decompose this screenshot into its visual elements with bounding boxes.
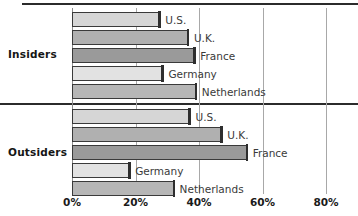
gridline-80 <box>326 8 327 194</box>
bar-insiders-germany[interactable] <box>72 66 162 81</box>
bar-insiders-uk[interactable] <box>72 30 188 45</box>
bar-row: Germany <box>72 163 326 178</box>
bar-row: U.S. <box>72 12 326 27</box>
bar-insiders-us[interactable] <box>72 12 159 27</box>
bar-label: France <box>253 147 288 159</box>
bar-end-cap <box>173 180 176 197</box>
bar-outsiders-us[interactable] <box>72 109 189 124</box>
bar-outsiders-uk[interactable] <box>72 127 221 142</box>
x-tick-label: 40% <box>186 196 211 208</box>
bar-row: Netherlands <box>72 181 326 196</box>
bar-outsiders-france[interactable] <box>72 145 247 160</box>
bar-end-cap <box>158 11 161 28</box>
group-label-insiders: Insiders <box>8 48 57 60</box>
bar-row: Netherlands <box>72 84 326 99</box>
bar-end-cap <box>193 47 196 64</box>
bar-chart: Insiders Outsiders U.S.U.K.FranceGermany… <box>0 0 358 216</box>
bar-outsiders-netherlands[interactable] <box>72 181 174 196</box>
bar-row: Germany <box>72 66 326 81</box>
top-rule <box>22 3 358 5</box>
group-label-outsiders: Outsiders <box>8 146 67 158</box>
bar-label: Germany <box>135 165 183 177</box>
bar-end-cap <box>195 83 198 100</box>
bar-label: Netherlands <box>180 183 244 195</box>
x-tick-label: 60% <box>250 196 275 208</box>
bar-row: U.S. <box>72 109 326 124</box>
bar-end-cap <box>187 29 190 46</box>
bar-label: Germany <box>168 68 216 80</box>
x-tick-label: 0% <box>63 196 81 208</box>
x-axis: 0%20%40%60%80% <box>72 196 326 214</box>
bar-end-cap <box>246 144 249 161</box>
plot-area: U.S.U.K.FranceGermanyNetherlandsU.S.U.K.… <box>72 8 326 194</box>
bar-end-cap <box>220 126 223 143</box>
bar-insiders-france[interactable] <box>72 48 194 63</box>
bar-row: U.K. <box>72 30 326 45</box>
x-tick-label: 20% <box>123 196 148 208</box>
bar-end-cap <box>188 108 191 125</box>
bar-label: U.S. <box>165 14 186 26</box>
bar-row: France <box>72 145 326 160</box>
bar-end-cap <box>128 162 131 179</box>
bar-label: U.K. <box>194 32 215 44</box>
bar-label: U.S. <box>195 111 216 123</box>
bar-label: U.K. <box>227 129 248 141</box>
x-tick-label: 80% <box>313 196 338 208</box>
bar-label: Netherlands <box>202 86 266 98</box>
bar-outsiders-germany[interactable] <box>72 163 129 178</box>
bar-end-cap <box>161 65 164 82</box>
bar-label: France <box>200 50 235 62</box>
bar-row: U.K. <box>72 127 326 142</box>
bar-row: France <box>72 48 326 63</box>
bar-insiders-netherlands[interactable] <box>72 84 196 99</box>
